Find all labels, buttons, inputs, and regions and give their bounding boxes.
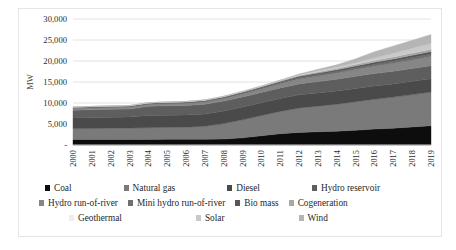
legend-item-hydro-run-of-river[interactable]: Hydro run-of-river bbox=[39, 199, 118, 208]
legend-item-cogeneration[interactable]: Cogeneration bbox=[289, 199, 348, 208]
x-axis-tick-label: 2013 bbox=[314, 150, 323, 167]
legend-item-label: Wind bbox=[308, 214, 328, 223]
legend-item-coal[interactable]: Coal bbox=[45, 184, 72, 193]
legend-item-wind[interactable]: Wind bbox=[299, 214, 328, 223]
x-axis-tick-label: 2017 bbox=[389, 150, 398, 167]
x-axis-tick-label: 2005 bbox=[163, 150, 172, 167]
x-axis-tick-label: 2010 bbox=[257, 150, 266, 167]
legend-item-diesel[interactable]: Diesel bbox=[227, 184, 260, 193]
x-axis-tick-label: 2000 bbox=[69, 150, 78, 167]
x-axis-tick-label: 2012 bbox=[295, 150, 304, 167]
y-axis-tick-label: 15,000 bbox=[43, 77, 67, 87]
chart-plot-area: -5,00010,00015,00020,00025,00030,000MW20… bbox=[19, 9, 441, 185]
y-axis-tick-label: - bbox=[64, 140, 67, 150]
legend-item-natural-gas[interactable]: Natural gas bbox=[124, 184, 176, 193]
y-axis-tick-label: 10,000 bbox=[43, 98, 67, 108]
legend-swatch-icon bbox=[289, 200, 294, 206]
x-axis-tick-label: 2004 bbox=[144, 149, 153, 167]
x-axis-tick-label: 2006 bbox=[182, 150, 191, 167]
y-axis-tick-label: 20,000 bbox=[43, 56, 67, 66]
legend-item-mini-hydro-run-of-river[interactable]: Mini hydro run-of-river bbox=[128, 199, 225, 208]
legend-swatch-icon bbox=[69, 215, 74, 221]
legend-item-label: Cogeneration bbox=[298, 199, 348, 208]
legend-item-solar[interactable]: Solar bbox=[196, 214, 225, 223]
x-axis-tick-label: 2003 bbox=[126, 150, 135, 167]
x-axis-tick-label: 2011 bbox=[276, 150, 285, 166]
y-axis-tick-label: 25,000 bbox=[43, 35, 67, 45]
x-axis-tick-label: 2009 bbox=[239, 150, 248, 167]
y-axis-tick-label: 5,000 bbox=[48, 119, 67, 129]
x-axis-tick-label: 2018 bbox=[408, 150, 417, 167]
legend-swatch-icon bbox=[39, 200, 44, 206]
legend-row: Hydro run-of-riverMini hydro run-of-rive… bbox=[27, 196, 433, 211]
legend-swatch-icon bbox=[235, 200, 240, 206]
x-axis-tick-label: 2008 bbox=[220, 150, 229, 167]
legend-swatch-icon bbox=[45, 185, 50, 191]
legend-row: GeothermalSolarWind bbox=[27, 211, 433, 226]
x-axis-tick-label: 2002 bbox=[107, 150, 116, 167]
legend-item-label: Mini hydro run-of-river bbox=[137, 199, 225, 208]
x-axis-tick-label: 2016 bbox=[370, 150, 379, 167]
legend-item-label: Diesel bbox=[236, 184, 260, 193]
legend-item-label: Coal bbox=[54, 184, 72, 193]
legend-item-label: Bio mass bbox=[244, 199, 278, 208]
legend-item-label: Geothermal bbox=[78, 214, 122, 223]
stacked-area-chart: -5,00010,00015,00020,00025,00030,000MW20… bbox=[19, 9, 441, 185]
legend-item-bio-mass[interactable]: Bio mass bbox=[235, 199, 278, 208]
legend-item-hydro-reservoir[interactable]: Hydro reservoir bbox=[312, 184, 380, 193]
x-axis-tick-label: 2014 bbox=[333, 149, 342, 167]
x-axis-tick-label: 2007 bbox=[201, 150, 210, 167]
x-axis-tick-label: 2019 bbox=[427, 150, 436, 167]
legend-item-label: Solar bbox=[205, 214, 225, 223]
x-axis-tick-label: 2001 bbox=[88, 150, 97, 167]
legend-row: CoalNatural gasDieselHydro reservoir bbox=[27, 181, 433, 196]
legend-swatch-icon bbox=[312, 185, 317, 191]
legend-swatch-icon bbox=[299, 215, 304, 221]
legend-swatch-icon bbox=[196, 215, 201, 221]
legend-swatch-icon bbox=[124, 185, 129, 191]
y-axis-title: MW bbox=[25, 74, 35, 90]
legend-item-label: Natural gas bbox=[133, 184, 176, 193]
legend-item-label: Hydro run-of-river bbox=[48, 199, 118, 208]
legend-item-geothermal[interactable]: Geothermal bbox=[69, 214, 122, 223]
chart-legend: CoalNatural gasDieselHydro reservoir Hyd… bbox=[19, 181, 441, 236]
legend-item-label: Hydro reservoir bbox=[321, 184, 380, 193]
chart-card: -5,00010,00015,00020,00025,00030,000MW20… bbox=[18, 8, 442, 237]
y-axis-tick-label: 30,000 bbox=[43, 14, 67, 24]
legend-swatch-icon bbox=[128, 200, 133, 206]
legend-swatch-icon bbox=[227, 185, 232, 191]
x-axis-tick-label: 2015 bbox=[352, 150, 361, 167]
